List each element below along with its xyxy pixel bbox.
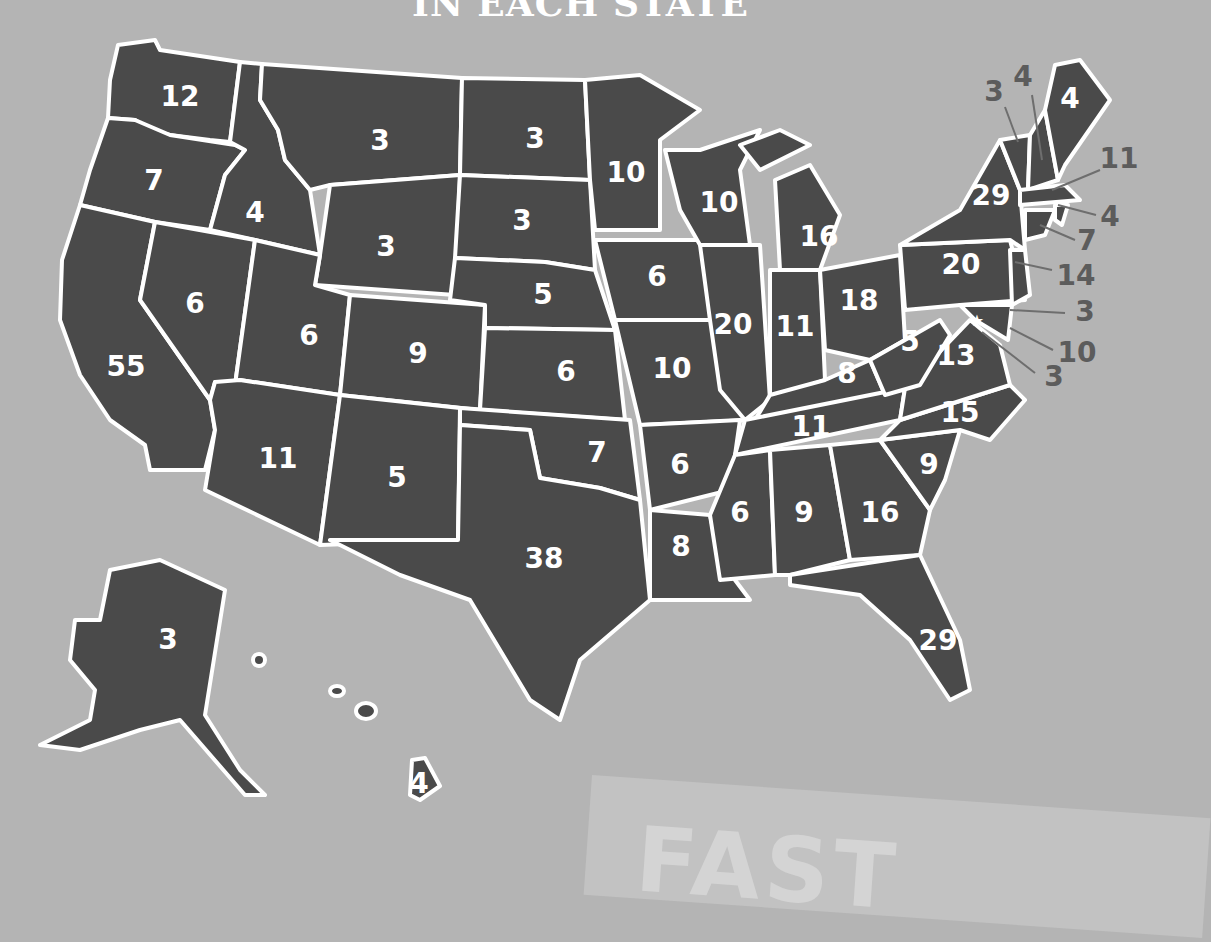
label-ca: 55 [107, 350, 146, 383]
label-mo: 10 [653, 352, 692, 385]
label-me: 4 [1060, 82, 1079, 115]
state-ma[interactable] [1020, 185, 1080, 205]
leader-de [1010, 310, 1065, 313]
label-tx: 38 [525, 542, 564, 575]
label-va: 13 [937, 339, 976, 372]
label-nv: 6 [185, 287, 204, 320]
state-hi-island [356, 703, 376, 719]
label-ky: 8 [837, 357, 856, 390]
leader-md [1010, 328, 1053, 350]
label-ny: 29 [972, 179, 1011, 212]
label-nd: 3 [525, 122, 544, 155]
label-ne: 5 [533, 278, 552, 311]
label-ga: 16 [861, 496, 900, 529]
label-il: 20 [714, 308, 753, 341]
label-mi: 16 [800, 220, 839, 253]
label-tn: 11 [792, 410, 831, 443]
label-wi: 10 [700, 186, 739, 219]
state-ks[interactable] [480, 328, 625, 420]
callout-vt: 3 [984, 75, 1003, 108]
label-ak: 3 [158, 623, 177, 656]
callout-ri: 4 [1100, 200, 1119, 233]
fast-card-text: FAST [633, 806, 903, 929]
state-nj[interactable] [1010, 250, 1030, 305]
state-mi[interactable] [775, 165, 840, 270]
state-hi-island [253, 654, 265, 666]
label-or: 7 [144, 164, 163, 197]
label-fl: 29 [919, 624, 958, 657]
callout-ma: 11 [1100, 142, 1139, 175]
callout-dc: 3 [1044, 360, 1063, 393]
label-ks: 6 [556, 355, 575, 388]
label-id: 4 [245, 196, 264, 229]
label-ia: 6 [647, 260, 666, 293]
label-ok: 7 [587, 436, 606, 469]
callout-nh: 4 [1013, 60, 1032, 93]
label-mn: 10 [607, 156, 646, 189]
label-la: 8 [671, 530, 690, 563]
label-al: 9 [794, 496, 813, 529]
label-nm: 5 [387, 461, 406, 494]
state-ak[interactable] [40, 560, 265, 795]
label-sd: 3 [512, 204, 531, 237]
label-ar: 6 [670, 448, 689, 481]
label-pa: 20 [942, 248, 981, 281]
label-wy: 3 [376, 230, 395, 263]
label-wv: 5 [900, 325, 919, 358]
label-az: 11 [259, 442, 298, 475]
label-ms: 6 [730, 496, 749, 529]
label-oh: 18 [840, 284, 879, 317]
dc-star-icon: ★ [970, 311, 984, 330]
callout-nj: 14 [1057, 259, 1096, 292]
label-mt: 3 [370, 124, 389, 157]
label-hi: 4 [409, 767, 428, 800]
label-wa: 12 [161, 80, 200, 113]
label-in: 11 [776, 310, 815, 343]
label-nc: 15 [941, 396, 980, 429]
callout-ct: 7 [1077, 224, 1096, 257]
label-co: 9 [408, 337, 427, 370]
callout-de: 3 [1075, 295, 1094, 328]
state-hi-island [330, 686, 344, 696]
label-sc: 9 [919, 448, 938, 481]
label-ut: 6 [299, 319, 318, 352]
